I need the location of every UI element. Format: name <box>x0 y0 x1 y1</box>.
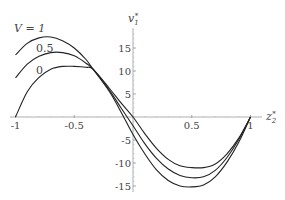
x-tick-label: 0.5 <box>184 120 200 131</box>
curve-label-v0: 0 <box>36 64 43 77</box>
curve-label-v1: V = 1 <box>14 22 45 35</box>
x-tick-label: -1 <box>11 120 21 131</box>
y-tick-label: 5 <box>125 89 131 100</box>
y-tick-label: -10 <box>115 158 131 169</box>
y-tick-label: -15 <box>115 181 131 192</box>
y-tick-label: 10 <box>118 66 131 77</box>
x-tick-label: -0.5 <box>65 120 84 131</box>
y-tick-label: -5 <box>121 135 131 146</box>
line-chart: -1-0.50.51 15105-5-10-15 v1* z2* V = 1 0… <box>0 0 285 200</box>
y-tick-label: 15 <box>118 43 131 54</box>
x-axis-label: z2* <box>265 110 277 125</box>
curve-label-v0.5: 0.5 <box>36 42 54 55</box>
y-axis-label: v1* <box>128 12 139 27</box>
